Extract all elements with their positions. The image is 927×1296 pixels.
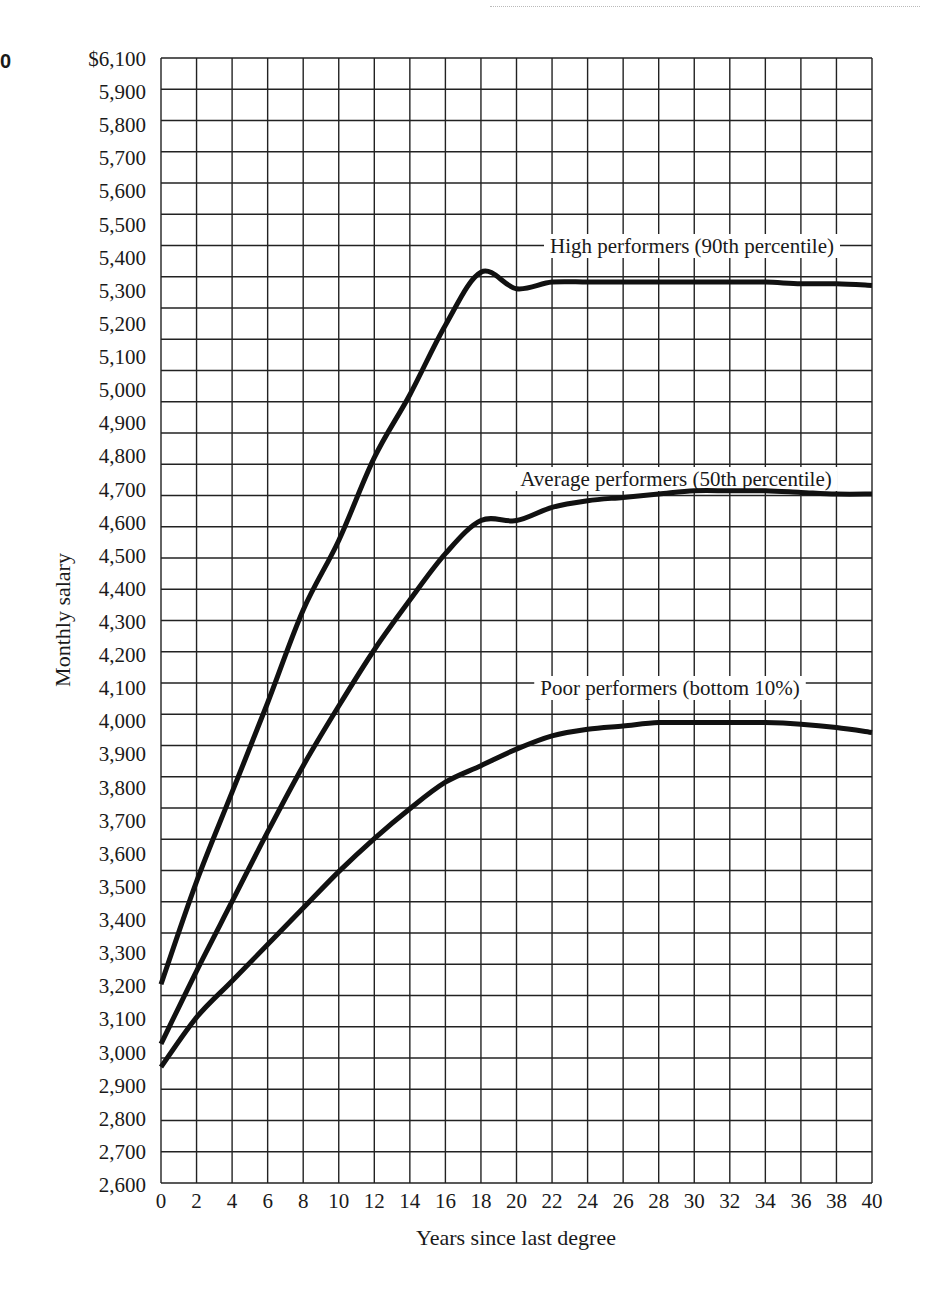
x-tick-label: 16 bbox=[435, 1189, 456, 1213]
y-tick-label: 5,600 bbox=[99, 179, 146, 203]
y-tick-label: 5,400 bbox=[99, 246, 146, 270]
y-tick-label: 3,000 bbox=[99, 1041, 146, 1065]
y-axis-label: Monthly salary bbox=[50, 553, 75, 687]
y-tick-label: 3,500 bbox=[99, 875, 146, 899]
series-labels: High performers (90th percentile)Average… bbox=[514, 234, 840, 700]
series-annotation: High performers (90th percentile) bbox=[550, 234, 834, 258]
x-tick-label: 26 bbox=[613, 1189, 634, 1213]
y-tick-label: $6,100 bbox=[88, 47, 146, 71]
series-annotation: Poor performers (bottom 10%) bbox=[540, 676, 800, 700]
y-tick-label: 3,100 bbox=[99, 1007, 146, 1031]
x-axis-ticks: 0246810121416182022242628303234363840 bbox=[156, 1189, 883, 1213]
y-tick-label: 2,900 bbox=[99, 1074, 146, 1098]
y-tick-label: 5,800 bbox=[99, 113, 146, 137]
y-tick-label: 4,700 bbox=[99, 478, 146, 502]
y-tick-label: 4,900 bbox=[99, 411, 146, 435]
y-tick-label: 4,400 bbox=[99, 577, 146, 601]
x-axis-label: Years since last degree bbox=[416, 1225, 616, 1250]
x-tick-label: 34 bbox=[755, 1189, 777, 1213]
y-tick-label: 3,400 bbox=[99, 908, 146, 932]
y-tick-label: 4,000 bbox=[99, 709, 146, 733]
y-axis-ticks: $6,1005,9005,8005,7005,6005,5005,4005,30… bbox=[88, 47, 146, 1197]
grid-lines bbox=[161, 58, 872, 1183]
x-tick-label: 28 bbox=[648, 1189, 669, 1213]
y-tick-label: 5,500 bbox=[99, 213, 146, 237]
y-tick-label: 5,300 bbox=[99, 279, 146, 303]
x-tick-label: 12 bbox=[364, 1189, 385, 1213]
y-tick-label: 5,000 bbox=[99, 378, 146, 402]
y-tick-label: 4,500 bbox=[99, 544, 146, 568]
y-tick-label: 3,700 bbox=[99, 809, 146, 833]
x-tick-label: 32 bbox=[719, 1189, 740, 1213]
x-tick-label: 38 bbox=[826, 1189, 847, 1213]
x-tick-label: 6 bbox=[262, 1189, 273, 1213]
y-tick-label: 2,800 bbox=[99, 1107, 146, 1131]
y-tick-label: 3,300 bbox=[99, 941, 146, 965]
salary-chart: $6,1005,9005,8005,7005,6005,5005,4005,30… bbox=[0, 0, 927, 1296]
y-tick-label: 5,200 bbox=[99, 312, 146, 336]
y-tick-label: 2,600 bbox=[99, 1173, 146, 1197]
x-tick-label: 40 bbox=[862, 1189, 883, 1213]
x-tick-label: 2 bbox=[191, 1189, 202, 1213]
x-tick-label: 10 bbox=[328, 1189, 349, 1213]
x-tick-label: 20 bbox=[506, 1189, 527, 1213]
y-tick-label: 5,700 bbox=[99, 146, 146, 170]
y-tick-label: 3,900 bbox=[99, 742, 146, 766]
y-tick-label: 3,200 bbox=[99, 974, 146, 998]
y-tick-label: 5,900 bbox=[99, 80, 146, 104]
x-tick-label: 24 bbox=[577, 1189, 599, 1213]
y-tick-label: 3,800 bbox=[99, 776, 146, 800]
x-tick-label: 36 bbox=[790, 1189, 811, 1213]
y-tick-label: 4,100 bbox=[99, 676, 146, 700]
x-tick-label: 8 bbox=[298, 1189, 309, 1213]
x-tick-label: 18 bbox=[470, 1189, 491, 1213]
x-tick-label: 14 bbox=[399, 1189, 421, 1213]
y-tick-label: 4,800 bbox=[99, 444, 146, 468]
series-annotation: Average performers (50th percentile) bbox=[520, 467, 832, 491]
x-tick-label: 30 bbox=[684, 1189, 705, 1213]
y-tick-label: 2,700 bbox=[99, 1140, 146, 1164]
y-tick-label: 4,200 bbox=[99, 643, 146, 667]
y-tick-label: 3,600 bbox=[99, 842, 146, 866]
y-tick-label: 4,600 bbox=[99, 511, 146, 535]
x-tick-label: 22 bbox=[542, 1189, 563, 1213]
y-tick-label: 5,100 bbox=[99, 345, 146, 369]
x-tick-label: 0 bbox=[156, 1189, 167, 1213]
x-tick-label: 4 bbox=[227, 1189, 238, 1213]
y-tick-label: 4,300 bbox=[99, 610, 146, 634]
